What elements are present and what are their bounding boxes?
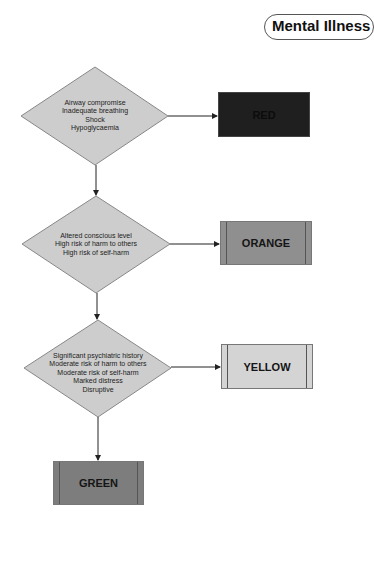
outcome-orange-label: ORANGE (221, 237, 311, 249)
criterion: Significant psychiatric history (24, 352, 172, 360)
criterion: Moderate risk of harm to others (24, 360, 172, 368)
outcome-green-box: GREEN (53, 461, 144, 505)
criterion: Altered conscious level (22, 232, 170, 240)
criterion: High risk of harm to others (22, 240, 170, 248)
criterion: Disruptive (24, 386, 172, 394)
outcome-yellow-box: YELLOW (221, 344, 313, 389)
outcome-yellow-label: YELLOW (222, 361, 312, 373)
criterion: Shock (21, 116, 169, 124)
outcome-red-label: RED (219, 109, 309, 121)
criterion: Moderate risk of self-harm (24, 369, 172, 377)
criterion: Inadequate breathing (21, 107, 169, 115)
criterion: High risk of self-harm (22, 249, 170, 257)
criterion: Marked distress (24, 377, 172, 385)
criterion: Airway compromise (21, 99, 169, 107)
decision-text-2: Altered conscious level High risk of har… (22, 232, 170, 257)
decision-text-1: Airway compromise Inadequate breathing S… (21, 99, 169, 133)
outcome-green-label: GREEN (54, 477, 143, 489)
decision-text-3: Significant psychiatric history Moderate… (24, 352, 172, 394)
outcome-orange-box: ORANGE (220, 221, 312, 265)
criterion: Hypoglycaemia (21, 124, 169, 132)
outcome-red-box: RED (218, 92, 310, 137)
